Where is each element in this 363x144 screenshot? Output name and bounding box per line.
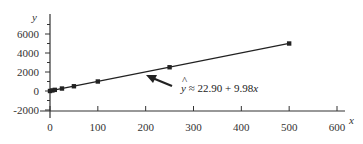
y-tick-label: 6000: [17, 28, 40, 40]
data-point: [287, 41, 291, 45]
x-tick-label: 300: [185, 121, 202, 133]
equation-x: x: [252, 82, 258, 94]
x-tick-label: 100: [90, 121, 107, 133]
y-axis-label: y: [31, 11, 37, 23]
x-axis-label: x: [348, 114, 354, 126]
y-tick-label: 4000: [17, 47, 40, 59]
x-tick-label: 0: [47, 121, 53, 133]
data-point: [167, 65, 171, 69]
y-tick-label: 2000: [17, 66, 40, 78]
equation-hat: ^: [182, 74, 188, 86]
regression-equation: y ≈ 22.90 + 9.98x: [180, 82, 258, 94]
x-tick-label: 500: [281, 121, 298, 133]
y-tick-label: 0: [34, 85, 40, 97]
x-tick-label: 200: [137, 121, 154, 133]
x-tick-label: 400: [233, 121, 250, 133]
regression-chart: -20000200040006000 0100200300400500600 y…: [0, 0, 363, 144]
x-ticks: 0100200300400500600: [47, 106, 346, 133]
data-point: [72, 84, 76, 88]
arrow-icon: [146, 75, 172, 86]
data-point: [53, 88, 57, 92]
y-tick-label: -2000: [13, 104, 39, 116]
x-tick-label: 600: [329, 121, 346, 133]
y-ticks: -20000200040006000: [13, 25, 50, 117]
equation-body: ≈ 22.90 + 9.98: [186, 82, 254, 94]
data-point: [60, 86, 64, 90]
data-point: [96, 79, 100, 83]
